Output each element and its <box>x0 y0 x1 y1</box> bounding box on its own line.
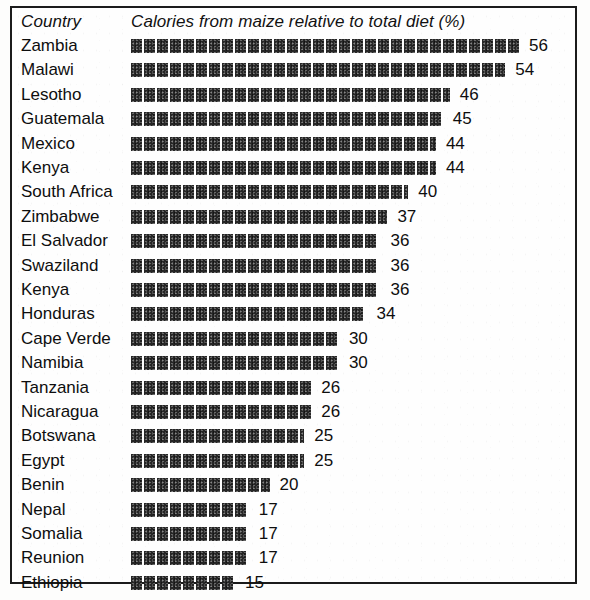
bar-segment <box>352 259 363 273</box>
bar-segment <box>287 88 298 102</box>
bar-segment <box>378 39 389 53</box>
bar-segment <box>183 405 194 419</box>
bar-segment <box>183 112 194 126</box>
chart-row: Egypt25 <box>12 451 575 475</box>
bar-segment <box>157 259 168 273</box>
bar-segment <box>196 210 207 224</box>
bar-segment <box>157 332 168 346</box>
bar-segment <box>235 185 246 199</box>
bar-segment <box>235 161 246 175</box>
bar-segment <box>495 39 506 53</box>
bar-value-label: 17 <box>259 524 278 544</box>
bar-value-label: 44 <box>446 158 465 178</box>
bar-segment <box>339 161 350 175</box>
bar-segment <box>144 356 155 370</box>
bar-segment <box>274 185 285 199</box>
bar-segment <box>404 88 415 102</box>
bar-segment <box>313 88 324 102</box>
bar-segment <box>274 63 285 77</box>
bar-segment <box>144 283 155 297</box>
bar-segment <box>196 88 207 102</box>
bar-segment <box>183 478 194 492</box>
bar-segment <box>417 88 428 102</box>
chart-row: Kenya44 <box>12 158 575 182</box>
bar-segment <box>313 185 324 199</box>
bar-segment <box>365 112 376 126</box>
bar-segment <box>222 161 233 175</box>
bar <box>131 88 450 102</box>
bar-segment <box>248 137 259 151</box>
bar-segment <box>352 88 363 102</box>
bar-segment <box>404 185 408 199</box>
bar <box>131 551 249 565</box>
bar-segment <box>183 307 194 321</box>
bar-segment <box>417 63 428 77</box>
bar-segment <box>235 137 246 151</box>
bar-segment <box>222 185 233 199</box>
bar-segment <box>157 429 168 443</box>
bar-segment <box>326 88 337 102</box>
bar-segment <box>248 405 259 419</box>
bar-segment <box>222 234 233 248</box>
bar-segment <box>170 503 181 517</box>
bar-segment <box>300 454 304 468</box>
bar-segment <box>131 88 142 102</box>
country-label: Namibia <box>21 353 83 373</box>
bar-segment <box>131 527 142 541</box>
chart-row: Guatemala45 <box>12 109 575 133</box>
bar-segment <box>157 137 168 151</box>
bar-segment <box>417 39 428 53</box>
bar-segment <box>131 551 142 565</box>
bar-segment <box>170 259 181 273</box>
bar-segment <box>300 88 311 102</box>
bar-segment <box>131 503 142 517</box>
bar-segment <box>131 429 142 443</box>
bar-segment <box>287 185 298 199</box>
bar-segment <box>417 161 428 175</box>
bar-segment <box>300 307 311 321</box>
bar-segment <box>196 112 207 126</box>
bar <box>131 259 380 273</box>
bar-segment <box>352 112 363 126</box>
bar <box>131 63 505 77</box>
bar-segment <box>378 88 389 102</box>
bar-segment <box>313 356 324 370</box>
bar-segment <box>274 88 285 102</box>
bar-value-label: 44 <box>446 134 465 154</box>
bar-segment <box>378 63 389 77</box>
bar-segment <box>352 137 363 151</box>
bar <box>131 39 519 53</box>
bar-segment <box>235 88 246 102</box>
bar-segment <box>157 210 168 224</box>
bar-segment <box>222 503 233 517</box>
chart-row: Kenya36 <box>12 280 575 304</box>
country-label: Zambia <box>21 36 78 56</box>
bar <box>131 478 270 492</box>
bar-segment <box>209 381 220 395</box>
bar-segment <box>326 185 337 199</box>
bar-segment <box>170 356 181 370</box>
bar-segment <box>183 332 194 346</box>
bar-segment <box>482 63 493 77</box>
bar-segment <box>274 454 285 468</box>
bar-segment <box>131 234 142 248</box>
bar <box>131 527 249 541</box>
bar-segment <box>235 356 246 370</box>
bar-segment <box>170 234 181 248</box>
bar-segment <box>131 332 142 346</box>
bar-value-label: 26 <box>321 378 340 398</box>
bar-segment <box>209 332 220 346</box>
bar-segment <box>222 307 233 321</box>
chart-row: Tanzania26 <box>12 378 575 402</box>
bar-segment <box>430 39 441 53</box>
bar-segment <box>196 307 207 321</box>
country-label: Egypt <box>21 451 64 471</box>
bar-segment <box>222 576 233 590</box>
bar-segment <box>196 234 207 248</box>
bar-segment <box>209 454 220 468</box>
bar-segment <box>222 63 233 77</box>
bar <box>131 503 249 517</box>
bar-segment <box>300 381 311 395</box>
chart-row: Lesotho46 <box>12 85 575 109</box>
bar-value-label: 25 <box>314 426 333 446</box>
